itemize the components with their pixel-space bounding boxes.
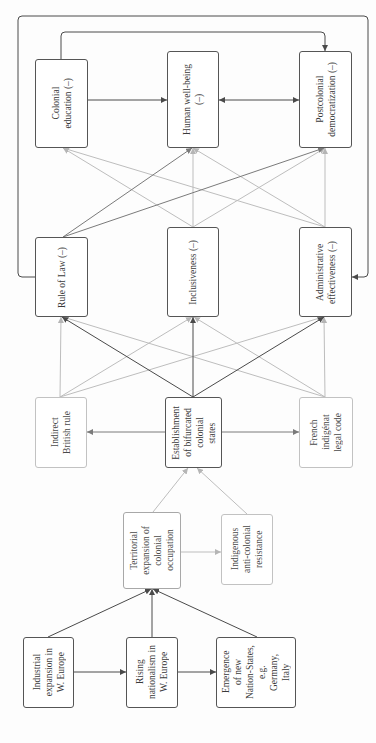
node-inclusiveness: Inclusiveness (–)	[167, 227, 219, 317]
edge-indirect-to-admin	[60, 317, 323, 397]
node-label: Industrial expansion in W. Europe	[31, 648, 67, 696]
edge-indirect-to-inclusiveness	[60, 317, 192, 397]
edge-establishment-to-rule-of-law	[62, 317, 193, 397]
node-label: French indigénat legal code	[308, 413, 344, 452]
edge-establishment-to-admin	[193, 317, 324, 397]
edge-rule-of-law-to-human-wellbeing	[63, 148, 192, 237]
edge-indirect-to-rule-of-law	[60, 317, 61, 397]
node-label: Establishment of bifurcated colonial sta…	[170, 406, 218, 460]
node-label: Human well-being (–)	[181, 64, 205, 135]
edge-indigenous-to-establishment	[197, 468, 247, 514]
node-indigenous-resistance: Indigenous anti-colonial resistance	[221, 514, 273, 585]
edge-industrial-to-territorial	[48, 589, 151, 637]
node-label: Administrative effectiveness (–)	[314, 241, 338, 304]
node-label: Colonial education (–)	[50, 78, 74, 128]
edge-french-to-inclusiveness	[194, 317, 325, 397]
node-territorial-expansion: Territorial expansion of colonial occupa…	[123, 512, 181, 589]
node-indirect-british-rule: Indirect British rule	[35, 397, 87, 468]
node-human-wellbeing: Human well-being (–)	[167, 51, 219, 148]
edge-emergence-to-territorial	[153, 589, 257, 637]
node-label: Postcolonial democratization (–)	[314, 62, 338, 137]
node-label: Indigenous anti-colonial resistance	[229, 525, 265, 573]
node-label: Rising nationalism in W. Europe	[134, 645, 170, 699]
edge-territorial-to-establishment	[153, 468, 188, 512]
node-label: Indirect British rule	[49, 411, 73, 454]
edge-french-to-admin	[324, 317, 325, 397]
node-postcolonial-democratization: Postcolonial democratization (–)	[299, 51, 352, 148]
causal-diagram: Colonial education (–) Human well-being …	[0, 0, 376, 743]
node-label: Territorial expansion of colonial occupa…	[128, 526, 176, 575]
edge-french-to-rule-of-law	[63, 317, 325, 397]
node-administrative-effectiveness: Administrative effectiveness (–)	[299, 227, 352, 317]
edge-admin-to-colonial-education	[63, 148, 325, 227]
node-new-nation-states: Emergence of new Nation-States, e.g. Ger…	[216, 637, 296, 708]
node-label: Rule of Law (–)	[56, 247, 68, 308]
node-colonial-education: Colonial education (–)	[35, 59, 88, 148]
node-rising-nationalism: Rising nationalism in W. Europe	[126, 637, 178, 708]
node-french-indigenat: French indigénat legal code	[299, 397, 353, 468]
node-bifurcated-colonial-states: Establishment of bifurcated colonial sta…	[165, 397, 222, 468]
node-rule-of-law: Rule of Law (–)	[35, 237, 88, 317]
node-industrial-expansion: Industrial expansion in W. Europe	[23, 637, 74, 708]
node-label: Emergence of new Nation-States, e.g. Ger…	[220, 645, 292, 699]
node-label: Inclusiveness (–)	[187, 240, 199, 305]
